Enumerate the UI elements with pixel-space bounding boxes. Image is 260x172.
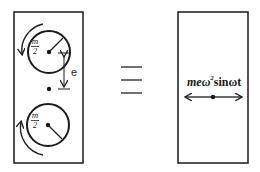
- lower-rotor-radius: [48, 125, 62, 139]
- upper-mass-label: m 2: [31, 36, 39, 56]
- upper-mass-numerator: m: [32, 36, 39, 46]
- force-label-suffix: sinωt: [214, 75, 241, 89]
- lower-mass-denominator: 2: [33, 121, 37, 130]
- shaft-center-dot: [47, 87, 51, 91]
- equivalence-icon: [121, 67, 142, 93]
- upper-mass-denominator: 2: [33, 47, 37, 56]
- eccentricity-dimension: e: [58, 53, 77, 89]
- lower-mass-label: m 2: [31, 110, 39, 130]
- upper-rotor: m 2: [22, 24, 70, 73]
- force-center-dot: [211, 95, 216, 100]
- diagram-canvas: m 2 e m 2: [0, 0, 260, 172]
- upper-rotor-radius: [49, 38, 63, 52]
- force-label: meω2sinωt: [187, 74, 241, 89]
- left-panel: m 2 e m 2: [14, 12, 83, 163]
- lower-mass-numerator: m: [32, 110, 39, 120]
- eccentricity-label: e: [71, 66, 77, 78]
- lower-rotor: m 2: [20, 104, 69, 155]
- force-label-prefix: meω: [187, 75, 211, 89]
- right-panel: meω2sinωt: [178, 12, 248, 163]
